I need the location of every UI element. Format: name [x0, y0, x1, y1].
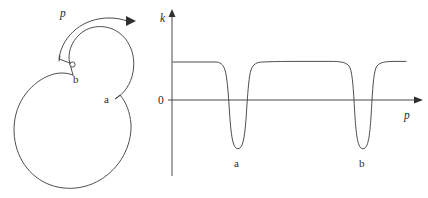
- figure-canvas: p b a k p 0 a b: [0, 0, 428, 198]
- start-point-marker: [70, 62, 75, 67]
- figure-root: p b a k p 0 a b: [0, 0, 428, 198]
- curvature-plot: k p 0 a b: [158, 9, 423, 176]
- dip-label-a: a: [234, 157, 239, 169]
- closed-curve-path: [14, 27, 134, 189]
- left-point-a-label: a: [104, 93, 109, 105]
- limacon-curve-diagram: p b a: [14, 7, 136, 188]
- origin-label: 0: [158, 94, 164, 106]
- x-axis-arrowhead: [414, 97, 423, 104]
- left-parameter-label: p: [59, 7, 66, 20]
- curvature-curve-path: [173, 61, 406, 148]
- y-axis-arrowhead: [169, 9, 176, 17]
- marker-leader-line: [59, 59, 70, 63]
- x-axis-label: p: [403, 109, 410, 122]
- y-axis-label: k: [160, 12, 166, 24]
- left-point-b-label: b: [73, 73, 79, 85]
- traversal-direction-arrowhead: [126, 16, 136, 26]
- dip-label-b: b: [359, 157, 365, 169]
